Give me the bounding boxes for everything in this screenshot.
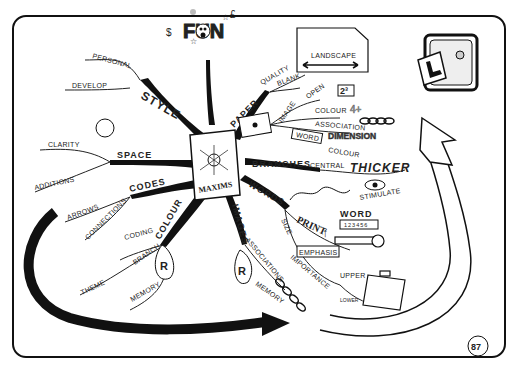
label-importance: IMPORTANCE — [289, 253, 331, 290]
label-association: ASSOCIATION — [315, 120, 366, 131]
label-size: SIZE — [280, 217, 293, 235]
memory-r-icon: R — [160, 260, 168, 272]
key-icon — [335, 235, 384, 247]
association-chain-icon — [360, 118, 394, 124]
label-arrows: ARROWS — [66, 203, 100, 221]
label-develop: DEVELOP — [72, 82, 107, 89]
label-colour-image: COLOUR — [315, 107, 347, 114]
up-arrow-icon: ↑ — [322, 226, 328, 240]
colour-badge: 4+ — [350, 104, 362, 115]
branch-words: WORDS — [247, 179, 286, 207]
svg-text:☆: ☆ — [190, 37, 197, 46]
label-connections: CONNECTIONS — [84, 197, 128, 241]
label-thicker: THICKER — [350, 161, 410, 175]
label-open: OPEN — [305, 82, 326, 100]
label-lower: LOWER — [340, 297, 359, 303]
label-colour-word: COLOUR — [328, 146, 360, 158]
big-arrow-left-head — [262, 312, 290, 336]
open-badge: 2³ — [340, 86, 348, 96]
label-coding: CODING — [123, 226, 154, 240]
label-dimension: DIMENSION — [328, 131, 376, 141]
fun-image: FUN $ £ ☆ ☆ — [166, 9, 236, 46]
label-personal: PERSONAL — [92, 52, 133, 69]
label-landscape: LANDSCAPE — [311, 52, 356, 59]
learner-plate-icon — [418, 35, 477, 90]
branch-space: SPACE — [117, 150, 152, 160]
label-emphasis: EMPHASIS — [299, 249, 338, 256]
mind-map: MAXIMS FUN $ £ ☆ ☆ STYLE PERSONAL D — [0, 0, 519, 378]
label-upper: UPPER — [340, 272, 366, 279]
label-image: IMAGE — [277, 100, 297, 124]
briefcase-icon — [363, 271, 405, 310]
wavy-line — [290, 187, 350, 200]
memory-r-icon-2: R — [238, 265, 246, 277]
svg-text:£: £ — [230, 9, 236, 20]
label-theme: THEME — [79, 279, 106, 296]
label-word: WORD — [340, 209, 373, 219]
label-additions: ADDITIONS — [34, 176, 75, 191]
branch-branches: BRANCHES — [252, 159, 311, 169]
label-central: CENTRAL — [310, 162, 345, 169]
label-clarity: CLARITY — [48, 141, 80, 148]
ruler-numbers: 123456 — [344, 222, 368, 228]
globe-icon — [96, 119, 114, 137]
svg-text:☆: ☆ — [222, 13, 229, 22]
label-memory-images: MEMORY — [254, 280, 285, 305]
page-number: 87 — [471, 342, 481, 352]
svg-text:$: $ — [166, 27, 172, 38]
big-arrow-right-head — [420, 118, 455, 165]
